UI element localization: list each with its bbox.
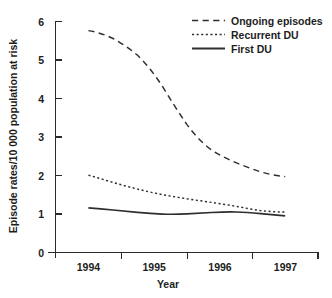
y-axis-ticks: [48, 22, 62, 253]
line-chart: 6 5 4 3 2 1 0 1994 1995 1996 1997 Year E…: [0, 0, 332, 298]
legend-label-ongoing-episodes: Ongoing episodes: [231, 15, 323, 27]
x-tick-label-1995: 1995: [143, 261, 167, 273]
y-tick-label-5: 5: [38, 54, 44, 66]
chart-figure: 6 5 4 3 2 1 0 1994 1995 1996 1997 Year E…: [0, 0, 332, 298]
y-tick-label-6: 6: [38, 16, 44, 28]
y-axis-title: Episode rates/10 000 population at risk: [7, 39, 19, 233]
y-tick-label-3: 3: [38, 131, 44, 143]
chart-legend: Ongoing episodes Recurrent DU First DU: [192, 15, 323, 55]
x-tick-label-1997: 1997: [274, 261, 298, 273]
x-tick-labels: 1994 1995 1996 1997: [77, 261, 298, 273]
y-tick-label-1: 1: [38, 208, 44, 220]
x-axis-title: Year: [157, 278, 179, 290]
y-tick-label-2: 2: [38, 170, 44, 182]
legend-label-recurrent-du: Recurrent DU: [231, 29, 299, 41]
y-tick-label-4: 4: [38, 93, 44, 105]
y-tick-labels: 6 5 4 3 2 1 0: [38, 16, 44, 259]
series-group: [88, 31, 285, 216]
y-tick-label-0: 0: [38, 247, 44, 259]
legend-label-first-du: First DU: [231, 43, 272, 55]
series-line-recurrent-du: [88, 175, 285, 212]
x-tick-label-1994: 1994: [77, 261, 101, 273]
x-tick-label-1996: 1996: [208, 261, 232, 273]
